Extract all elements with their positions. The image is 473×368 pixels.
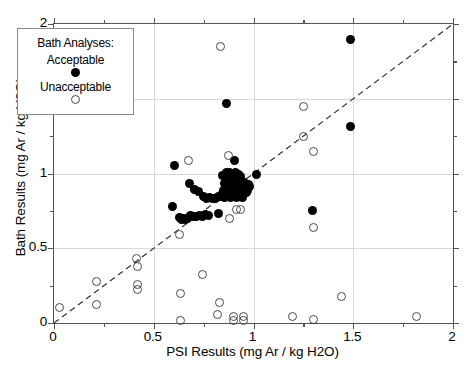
- data-point-acceptable: [308, 206, 317, 215]
- data-point-unacceptable: [198, 270, 207, 279]
- data-point-unacceptable: [309, 315, 318, 324]
- scatter-plot-figure: Bath Results (mg Ar / kg H2O) PSI Result…: [0, 0, 473, 368]
- data-point-unacceptable: [239, 316, 248, 325]
- data-point-unacceptable: [176, 289, 185, 298]
- y-tick: [48, 174, 54, 175]
- y-tick-right: [453, 24, 459, 25]
- x-tick-label: 0.5: [128, 330, 178, 344]
- x-tick-top: [154, 18, 155, 24]
- data-point-unacceptable: [176, 316, 185, 325]
- x-tick-top: [204, 20, 205, 24]
- y-tick: [48, 24, 54, 25]
- x-tick-label: 1.5: [327, 330, 377, 344]
- y-tick-label: 0.5: [1, 240, 47, 254]
- data-point-acceptable: [170, 161, 179, 170]
- y-tick: [48, 323, 54, 324]
- data-point-unacceptable: [309, 223, 318, 232]
- y-tick-right: [453, 323, 459, 324]
- y-tick-right: [453, 286, 457, 287]
- x-axis-label: PSI Results (mg Ar / kg H2O): [53, 344, 452, 360]
- y-tick-label: 0: [1, 315, 47, 329]
- y-tick-right: [453, 248, 459, 249]
- data-point-acceptable: [346, 35, 355, 44]
- data-point-acceptable: [204, 211, 213, 220]
- x-tick-top: [403, 20, 404, 24]
- x-tick-label: 0: [28, 330, 78, 344]
- data-point-acceptable: [238, 193, 247, 202]
- legend-title: Bath Analyses:: [18, 36, 133, 50]
- legend-label-unacceptable: Unacceptable: [18, 80, 133, 94]
- data-point-unacceptable: [229, 316, 238, 325]
- y-tick: [48, 248, 54, 249]
- y-tick: [50, 136, 54, 137]
- x-tick-label: 1: [228, 330, 278, 344]
- legend-marker-acceptable-icon: [71, 68, 80, 77]
- data-point-unacceptable: [175, 230, 184, 239]
- x-tick: [403, 323, 404, 327]
- x-tick-top: [254, 18, 255, 24]
- x-tick: [204, 323, 205, 327]
- legend-box: Bath Analyses: Acceptable Unacceptable: [17, 28, 134, 115]
- x-tick-top: [54, 18, 55, 24]
- data-point-unacceptable: [288, 312, 297, 321]
- data-point-acceptable: [346, 122, 355, 131]
- data-point-acceptable: [214, 209, 223, 218]
- data-point-acceptable: [168, 202, 177, 211]
- data-point-unacceptable: [309, 147, 318, 156]
- y-tick: [50, 286, 54, 287]
- legend-marker-unacceptable-icon: [71, 95, 80, 104]
- y-tick-right: [453, 211, 457, 212]
- x-tick: [303, 323, 304, 327]
- x-tick-top: [303, 20, 304, 24]
- data-point-unacceptable: [236, 205, 245, 214]
- legend-label-acceptable: Acceptable: [18, 53, 133, 67]
- y-tick-right: [453, 99, 459, 100]
- y-tick-right: [453, 61, 457, 62]
- x-tick-top: [104, 20, 105, 24]
- y-tick: [50, 211, 54, 212]
- y-tick-label: 1: [1, 166, 47, 180]
- x-tick-label: 2: [427, 330, 473, 344]
- x-tick: [104, 323, 105, 327]
- y-tick-right: [453, 136, 457, 137]
- data-point-unacceptable: [215, 298, 224, 307]
- data-point-unacceptable: [299, 102, 308, 111]
- y-tick-right: [453, 174, 459, 175]
- data-point-unacceptable: [412, 312, 421, 321]
- data-point-unacceptable: [225, 214, 234, 223]
- data-point-unacceptable: [299, 132, 308, 141]
- data-point-unacceptable: [216, 42, 225, 51]
- x-tick-top: [353, 18, 354, 24]
